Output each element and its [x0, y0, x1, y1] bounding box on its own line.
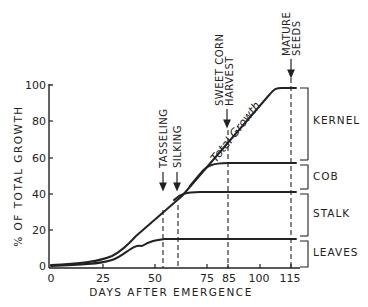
- y-tick-labels: 100 80 60 40 20 0: [25, 79, 46, 273]
- mature-seeds-label-line2: SEEDS: [291, 20, 302, 56]
- partition-brackets: [300, 88, 308, 267]
- kernel-label: KERNEL: [313, 114, 360, 126]
- stalk-bracket: [300, 194, 308, 236]
- cob-label: COB: [313, 170, 339, 182]
- axes: [49, 84, 300, 268]
- stalk-label: STALK: [313, 207, 350, 219]
- sweet-corn-label-line2: HARVEST: [224, 56, 235, 106]
- y-tick-80: 80: [32, 115, 46, 128]
- leaves-bracket: [300, 241, 308, 267]
- sweet-corn-arrow-icon: [224, 120, 230, 127]
- corn-growth-chart: 100 80 60 40 20 0 0 25 50 75 85 100 115 …: [0, 0, 368, 307]
- x-tick-labels: 0 25 50 75 85 100 115: [48, 272, 301, 285]
- y-tick-20: 20: [32, 224, 46, 237]
- x-tick-0: 0: [48, 272, 55, 285]
- x-axis-title: DAYS AFTER EMERGENCE: [89, 286, 253, 298]
- kernel-bracket: [300, 88, 308, 160]
- y-axis-title: % OF TOTAL GROWTH: [12, 105, 24, 247]
- partition-labels: KERNEL COB STALK LEAVES: [313, 114, 360, 258]
- x-tick-100: 100: [249, 272, 270, 285]
- x-tick-115: 115: [280, 272, 301, 285]
- y-tick-60: 60: [32, 152, 46, 165]
- cob-curve: [190, 163, 296, 186]
- y-tick-100: 100: [25, 79, 46, 92]
- silking-label: SILKING: [172, 125, 183, 168]
- silking-arrow-icon: [174, 183, 180, 190]
- curves: [51, 88, 296, 266]
- tasseling-label: TASSELING: [158, 109, 169, 169]
- leaves-label: LEAVES: [313, 246, 358, 258]
- x-tick-25: 25: [96, 272, 110, 285]
- total-growth-label: Total Growth: [207, 99, 263, 165]
- y-tick-40: 40: [32, 188, 46, 201]
- cob-bracket: [300, 165, 308, 189]
- y-tick-0: 0: [39, 260, 46, 273]
- stalk-curve: [174, 192, 296, 200]
- x-tick-50: 50: [148, 272, 162, 285]
- mature-seeds-arrow-icon: [288, 70, 294, 77]
- x-tick-85: 85: [222, 272, 236, 285]
- tasseling-arrow-icon: [160, 183, 166, 190]
- x-tick-75: 75: [200, 272, 214, 285]
